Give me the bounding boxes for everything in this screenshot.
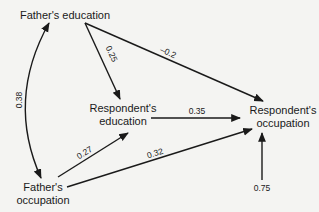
node-fathers-occupation: Father's occupation — [16, 181, 69, 206]
node-respondents-education-line1: Respondent's — [90, 102, 157, 114]
node-fathers-education: Father's education — [20, 9, 110, 21]
node-respondents-education-line2: education — [99, 115, 147, 127]
edge-fe-fo-curved-arrow — [25, 23, 49, 178]
node-fathers-occupation-line2: occupation — [16, 194, 69, 206]
edge-label-re-ro: 0.35 — [189, 106, 206, 116]
edge-fo-re-arrow — [58, 133, 128, 177]
edge-label-fo-ro: 0.32 — [146, 146, 165, 161]
edge-fo-ro-arrow — [67, 129, 252, 187]
node-respondents-occupation-line1: Respondent's — [250, 104, 317, 116]
node-respondents-occupation-line2: occupation — [256, 117, 309, 129]
node-respondents-occupation: Respondent's occupation — [250, 104, 317, 129]
path-diagram: Father's education Respondent's educatio… — [0, 0, 319, 212]
node-fathers-occupation-line1: Father's — [23, 181, 63, 193]
edge-label-fo-re: 0.27 — [75, 144, 95, 161]
edge-label-fe-re: 0.25 — [104, 44, 120, 63]
edge-label-fe-ro: –0.2 — [159, 44, 178, 60]
edge-label-fe-fo: 0.38 — [14, 91, 24, 108]
node-respondents-education: Respondent's education — [90, 102, 157, 127]
edge-label-residual-ro: 0.75 — [254, 183, 271, 193]
